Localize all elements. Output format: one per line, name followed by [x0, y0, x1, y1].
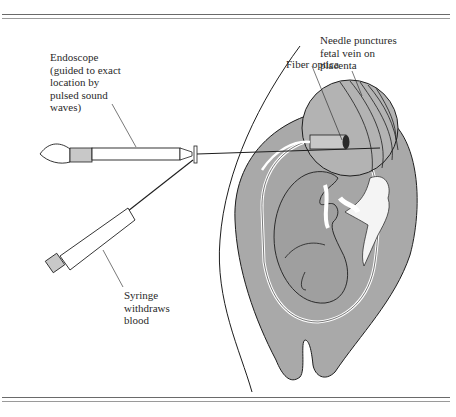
label-endoscope: Endoscope (guided to exact location by p… — [50, 51, 140, 114]
label-syringe: Syringe withdraws blood — [124, 289, 170, 327]
leader-syringe — [103, 250, 123, 287]
hand — [40, 144, 70, 163]
syringe — [45, 160, 193, 273]
label-fiber-optica: Fiber optica — [286, 58, 339, 71]
